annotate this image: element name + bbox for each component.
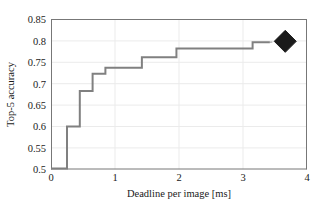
- x-tick-label: 4: [304, 172, 310, 183]
- x-tick-label: 0: [48, 172, 53, 183]
- step-chart: 0.85 0.8 0.75 0.7 0.65 0.6 0.55 0.5 0 1 …: [0, 0, 324, 209]
- x-tick-label: 1: [112, 172, 117, 183]
- y-tick-label: 0.65: [28, 100, 46, 111]
- x-tick-label: 3: [240, 172, 245, 183]
- x-axis-title: Deadline per image [ms]: [127, 188, 231, 199]
- y-tick-label: 0.5: [33, 164, 46, 175]
- y-tick-label: 0.85: [28, 14, 46, 25]
- x-tick-label: 2: [176, 172, 181, 183]
- y-tick-label: 0.55: [28, 143, 46, 154]
- y-tick-label: 0.7: [33, 79, 46, 90]
- chart-figure: 0.85 0.8 0.75 0.7 0.65 0.6 0.55 0.5 0 1 …: [0, 0, 324, 209]
- y-tick-label: 0.75: [28, 57, 46, 68]
- y-axis-title: Top-5 accuracy: [5, 61, 16, 127]
- y-tick-label: 0.8: [33, 36, 46, 47]
- y-tick-label: 0.6: [33, 121, 46, 132]
